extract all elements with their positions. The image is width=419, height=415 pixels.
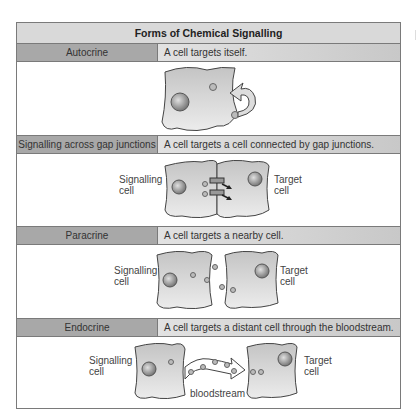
row-endocrine: Endocrine A cell targets a distant cell … [17,319,400,337]
row-description: A cell targets a distant cell through th… [158,319,400,336]
signalling-cell-label: Signallingcell [89,355,132,377]
target-cell-label: Targetcell [280,265,308,287]
paracrine-illustration: Signallingcell Targetcell [17,245,400,319]
row-autocrine: Autocrine A cell targets itself. [17,44,400,62]
row-gap-junctions: Signalling across gap junctions A cell t… [17,136,400,154]
row-description: A cell targets a cell connected by gap j… [158,136,400,153]
table-title: Forms of Chemical Signalling [17,23,400,44]
endocrine-illustration: Signallingcell Targetcell bloodstream [17,337,400,408]
gap-junction-cell-diagram [17,154,402,226]
autocrine-illustration [17,62,400,136]
row-name: Signalling across gap junctions [17,136,158,153]
row-name: Paracrine [17,227,158,244]
row-name: Endocrine [17,319,158,336]
row-paracrine: Paracrine A cell targets a nearby cell. [17,227,400,245]
signalling-cell-label: Signallingcell [114,265,157,287]
target-cell-label: Targetcell [274,174,302,196]
bloodstream-label: bloodstream [190,388,245,399]
edge-artifact [415,30,416,40]
chemical-signalling-table: Forms of Chemical Signalling Autocrine A… [16,22,401,409]
gap-junction-illustration: Signallingcell Targetcell [17,154,400,227]
row-description: A cell targets a nearby cell. [158,227,400,244]
row-description: A cell targets itself. [158,44,400,61]
target-cell-label: Targetcell [304,355,332,377]
signalling-cell-label: Signallingcell [119,174,162,196]
paracrine-cell-diagram [17,245,402,318]
autocrine-cell-diagram [17,62,402,135]
row-name: Autocrine [17,44,158,61]
